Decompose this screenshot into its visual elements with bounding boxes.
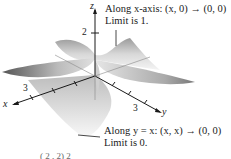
surface-left-wing: [2, 58, 95, 77]
x-axis-label: x: [3, 98, 7, 109]
x-tick-label: 3: [23, 83, 28, 93]
annotation-y-equals-x: Along y = x: (x, x) → (0, 0) Limit is 0.: [104, 125, 221, 149]
y-axis-label: y: [162, 106, 166, 117]
y-tick-label: 3: [133, 103, 138, 113]
caption-fragment: ( 2 , 2) 2: [40, 150, 71, 159]
annotation-x-axis-line2: Limit is 1.: [105, 15, 226, 27]
annotation-y-equals-x-line1: Along y = x: (x, x) → (0, 0): [104, 125, 221, 137]
surface-plot-figure: z x y 2 3 3 Along x-axis: (x, 0) → (0, 0…: [0, 0, 231, 159]
annotation-x-axis-line1: Along x-axis: (x, 0) → (0, 0): [105, 3, 226, 15]
annotation-y-equals-x-line2: Limit is 0.: [104, 137, 221, 149]
annotation-x-axis: Along x-axis: (x, 0) → (0, 0) Limit is 1…: [105, 3, 226, 27]
z-tick-label: 2: [82, 27, 87, 37]
z-axis-label: z: [90, 0, 94, 11]
